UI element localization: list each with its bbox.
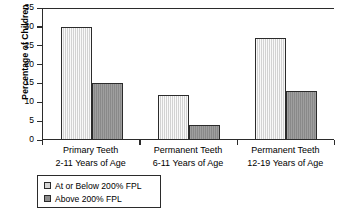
y-axis-tick-label: 10: [25, 96, 34, 107]
bar-2-series-0: [255, 38, 286, 140]
legend-item-0: At or Below 200% FPL: [44, 179, 160, 192]
x-axis-category-line2: 2-11 Years of Age: [42, 157, 139, 170]
x-axis-category-2: Permanent Teeth12-19 Years of Age: [237, 144, 334, 169]
bar-0-series-0: [61, 27, 92, 140]
bar-1-series-1: [189, 125, 220, 140]
legend-item-1: Above 200% FPL: [44, 192, 160, 205]
x-axis-category-line2: 6-11 Years of Age: [139, 157, 236, 170]
y-axis-tick-label: 15: [25, 77, 34, 88]
x-axis-category-line1: Permanent Teeth: [154, 145, 222, 155]
legend-swatch-icon: [44, 195, 51, 202]
x-axis-category-1: Permanent Teeth6-11 Years of Age: [139, 144, 236, 169]
y-axis-tick-label: 20: [25, 59, 34, 70]
bar-chart: Percentage of Children 35302520151050 Pr…: [0, 0, 341, 214]
bar-2-series-1: [286, 91, 317, 140]
legend-label: At or Below 200% FPL: [55, 181, 141, 191]
bar-1-series-0: [158, 95, 189, 140]
legend-label: Above 200% FPL: [55, 194, 122, 204]
bar-0-series-1: [92, 83, 123, 140]
x-axis-category-line2: 12-19 Years of Age: [237, 157, 334, 170]
plot-area: [42, 8, 334, 140]
y-axis-tick-label: 0: [29, 134, 34, 145]
y-axis-tick-label: 25: [25, 40, 34, 51]
x-axis-separator: [334, 140, 335, 145]
y-axis-tick-label: 5: [29, 115, 34, 126]
y-axis-tick-label: 30: [25, 21, 34, 32]
legend-swatch-icon: [44, 182, 51, 189]
y-axis-tick-label: 35: [25, 2, 34, 13]
x-axis-category-0: Primary Teeth2-11 Years of Age: [42, 144, 139, 169]
x-axis-category-line1: Primary Teeth: [63, 145, 118, 155]
legend: At or Below 200% FPLAbove 200% FPL: [37, 175, 161, 208]
x-axis-category-line1: Permanent Teeth: [251, 145, 319, 155]
